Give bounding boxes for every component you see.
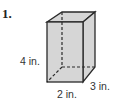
prism-front-face bbox=[47, 22, 83, 82]
width-label: 2 in. bbox=[57, 89, 77, 100]
prism-right-face bbox=[83, 12, 95, 82]
depth-label: 3 in. bbox=[90, 81, 110, 92]
height-label: 4 in. bbox=[20, 56, 40, 67]
